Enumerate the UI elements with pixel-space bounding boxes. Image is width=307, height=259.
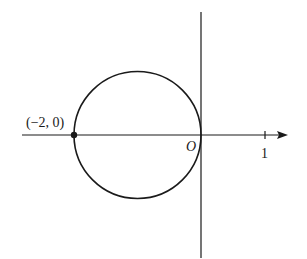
diagram-canvas: (−2, 0) O 1 [0, 0, 307, 259]
point-neg2-0 [71, 132, 77, 138]
point-label: (−2, 0) [26, 115, 65, 131]
x-tick-label-1: 1 [261, 146, 268, 161]
origin-label: O [186, 139, 196, 154]
